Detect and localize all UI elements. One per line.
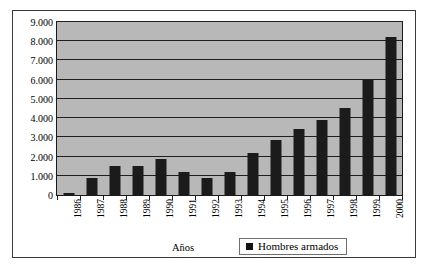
bar[interactable] [224, 172, 235, 195]
y-axis-tick-label: 0 [13, 191, 53, 201]
bar[interactable] [316, 120, 327, 195]
x-axis-tick-label: 1993 [234, 199, 244, 239]
bar[interactable] [178, 172, 189, 195]
x-axis-tick-label: 1987 [96, 199, 106, 239]
bar-slot [333, 22, 356, 195]
bar-slot [379, 22, 402, 195]
bar[interactable] [132, 166, 143, 195]
bar[interactable] [201, 178, 212, 195]
bar-chart: 01.0002.0003.0004.0005.0006.0007.0008.00… [13, 11, 415, 257]
y-axis-tick-label: 8.000 [13, 37, 53, 47]
y-axis-labels: 01.0002.0003.0004.0005.0006.0007.0008.00… [13, 21, 53, 196]
bar-slot [195, 22, 218, 195]
bar-slot [103, 22, 126, 195]
x-axis-labels: 1986198719881989199019911992199319941995… [57, 201, 402, 241]
bar[interactable] [385, 37, 396, 195]
x-axis-tick-label: 1988 [119, 199, 129, 239]
bar-slot [80, 22, 103, 195]
bar[interactable] [362, 80, 373, 195]
bar[interactable] [63, 193, 74, 195]
x-axis-tick-label: 1992 [211, 199, 221, 239]
bar-slot [218, 22, 241, 195]
bar[interactable] [339, 108, 350, 195]
x-axis-tick-label: 1994 [257, 199, 267, 239]
bar-slot [264, 22, 287, 195]
bars-layer [57, 22, 402, 195]
x-axis-tick-label: 1996 [303, 199, 313, 239]
x-axis-tick-label: 1990 [165, 199, 175, 239]
x-axis-tick-label: 2000 [395, 199, 405, 239]
legend-square-marker [246, 243, 253, 250]
y-axis-tick-label: 1.000 [13, 172, 53, 182]
y-axis-tick-label: 5.000 [13, 95, 53, 105]
bar-slot [310, 22, 333, 195]
bar-slot [57, 22, 80, 195]
y-axis-tick-label: 7.000 [13, 56, 53, 66]
x-axis-tick-label: 1998 [349, 199, 359, 239]
bar[interactable] [270, 140, 281, 195]
x-axis-tick-label: 1999 [372, 199, 382, 239]
bar[interactable] [109, 166, 120, 195]
y-axis-tick-label: 9.000 [13, 18, 53, 28]
bar-slot [287, 22, 310, 195]
x-axis-title: Años [123, 242, 243, 253]
y-axis-tick-label: 4.000 [13, 114, 53, 124]
y-axis-tick-label: 3.000 [13, 133, 53, 143]
y-axis-tick-label: 6.000 [13, 76, 53, 86]
bar[interactable] [86, 178, 97, 195]
x-axis-tick-label: 1991 [188, 199, 198, 239]
chart-figure-frame: 01.0002.0003.0004.0005.0006.0007.0008.00… [12, 10, 416, 258]
chart-legend: Hombres armados [239, 238, 347, 255]
x-axis-tickmark [57, 196, 58, 200]
bar[interactable] [247, 153, 258, 195]
x-axis-tick-label: 1997 [326, 199, 336, 239]
bar[interactable] [293, 129, 304, 195]
bar[interactable] [155, 159, 166, 195]
bar-slot [356, 22, 379, 195]
x-axis-tick-label: 1986 [73, 199, 83, 239]
bar-slot [241, 22, 264, 195]
x-axis-tick-label: 1995 [280, 199, 290, 239]
bar-slot [172, 22, 195, 195]
x-axis-tick-label: 1989 [142, 199, 152, 239]
legend-entry-label: Hombres armados [258, 241, 338, 252]
bar-slot [126, 22, 149, 195]
y-axis-tick-label: 2.000 [13, 153, 53, 163]
bar-slot [149, 22, 172, 195]
